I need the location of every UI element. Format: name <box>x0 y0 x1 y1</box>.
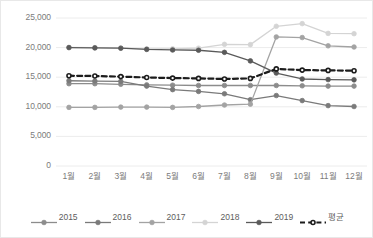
legend-swatch-icon <box>31 213 57 222</box>
data-point <box>326 31 331 36</box>
data-point <box>170 83 175 88</box>
legend-label: 2019 <box>274 213 293 222</box>
data-point <box>196 48 201 53</box>
data-point <box>67 78 72 83</box>
data-point <box>144 105 149 110</box>
data-point <box>144 84 149 89</box>
legend-item-2016[interactable]: 2016 <box>85 213 132 222</box>
series-layer <box>67 21 357 109</box>
data-point <box>170 105 175 110</box>
legend-swatch-icon <box>246 213 272 222</box>
data-point <box>300 68 304 72</box>
data-point <box>196 89 201 94</box>
data-point <box>93 74 97 78</box>
data-point <box>326 103 331 108</box>
data-point <box>352 84 357 89</box>
data-point <box>300 98 305 103</box>
legend-swatch-icon <box>139 213 165 222</box>
data-point <box>248 76 252 80</box>
data-point <box>300 83 305 88</box>
y-axis-tick-label: 20,000 <box>5 43 51 52</box>
legend-label: 2015 <box>59 213 78 222</box>
legend-item-2019[interactable]: 2019 <box>246 213 293 222</box>
x-axis-tick-label: 2월 <box>82 171 108 181</box>
chart-legend: 20152016201720182019평균 <box>1 207 373 227</box>
legend-item-평균[interactable]: 평균 <box>300 213 344 222</box>
x-axis-tick-label: 7월 <box>211 171 237 181</box>
series-2018 <box>67 21 357 51</box>
data-point <box>118 105 123 110</box>
data-point <box>145 76 149 80</box>
x-axis-tick-label: 1월 <box>56 171 82 181</box>
data-point <box>170 87 175 92</box>
legend-label: 2017 <box>167 213 186 222</box>
x-axis-tick-label: 4월 <box>134 171 160 181</box>
data-point <box>93 46 98 51</box>
y-axis-tick-label: 15,000 <box>5 72 51 81</box>
legend-label: 평균 <box>328 213 344 222</box>
data-point <box>197 76 201 80</box>
data-point <box>118 46 123 51</box>
y-axis-tick-label: 25,000 <box>5 13 51 22</box>
data-point <box>144 47 149 52</box>
series-line <box>69 84 354 86</box>
legend-item-2015[interactable]: 2015 <box>31 213 78 222</box>
x-axis-tick-label: 11월 <box>315 171 341 181</box>
series-2015 <box>67 81 357 88</box>
legend-item-2017[interactable]: 2017 <box>139 213 186 222</box>
x-axis-tick-label: 12월 <box>341 171 367 181</box>
data-point <box>196 83 201 88</box>
data-point <box>222 103 227 108</box>
data-point <box>326 68 330 72</box>
data-point <box>352 104 357 109</box>
data-point <box>274 24 279 29</box>
data-point <box>274 67 278 71</box>
x-axis-tick-label: 10월 <box>289 171 315 181</box>
data-point <box>326 44 331 49</box>
line-chart: 05,00010,00015,00020,00025,000 1월2월3월4월5… <box>0 0 373 238</box>
data-point <box>326 77 331 82</box>
series-2016 <box>67 78 357 108</box>
data-point <box>248 42 253 47</box>
data-point <box>248 59 253 64</box>
data-point <box>274 83 279 88</box>
data-point <box>222 83 227 88</box>
x-axis-tick-label: 9월 <box>263 171 289 181</box>
y-axis-tick-label: 0 <box>5 161 51 170</box>
data-point <box>222 77 226 81</box>
data-point <box>326 84 331 89</box>
data-point <box>222 50 227 55</box>
data-point <box>118 79 123 84</box>
data-point <box>352 45 357 50</box>
data-point <box>300 77 305 82</box>
x-axis-tick-label: 8월 <box>237 171 263 181</box>
x-axis-tick-label: 6월 <box>186 171 212 181</box>
legend-swatch-icon <box>192 213 218 222</box>
y-axis-tick-label: 5,000 <box>5 131 51 140</box>
legend-item-2018[interactable]: 2018 <box>192 213 239 222</box>
data-point <box>196 104 201 109</box>
legend-swatch-icon <box>300 213 326 222</box>
data-point <box>222 91 227 96</box>
data-point <box>248 102 253 107</box>
x-axis-tick-label: 5월 <box>160 171 186 181</box>
data-point <box>274 93 279 98</box>
data-point <box>222 42 227 47</box>
legend-label: 2016 <box>113 213 132 222</box>
data-point <box>352 69 356 73</box>
x-axis-tick-label: 3월 <box>108 171 134 181</box>
legend-label: 2018 <box>220 213 239 222</box>
data-point <box>352 31 357 36</box>
data-point <box>300 35 305 40</box>
data-point <box>67 105 72 110</box>
data-point <box>93 79 98 84</box>
data-point <box>300 21 305 26</box>
data-point <box>171 76 175 80</box>
data-point <box>93 105 98 110</box>
series-line <box>69 48 354 80</box>
legend-swatch-icon <box>85 213 111 222</box>
data-point <box>274 35 279 40</box>
chart-canvas <box>1 1 373 238</box>
data-point <box>248 83 253 88</box>
data-point <box>119 75 123 79</box>
